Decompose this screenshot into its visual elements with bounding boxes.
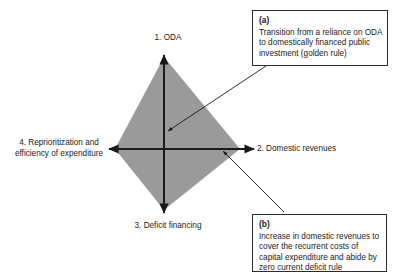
- kite-shape: [115, 57, 240, 210]
- axis-label-domestic-revenues: 2. Domestic revenues: [257, 144, 336, 155]
- axis-label-oda: 1. ODA: [128, 33, 208, 44]
- diagram-root: 1. ODA 2. Domestic revenues 3. Deficit f…: [0, 0, 400, 280]
- callout-b-tag: (b): [259, 219, 381, 230]
- axis-label-deficit-financing: 3. Deficit financing: [118, 221, 218, 232]
- axis-label-reprioritization-line1: 4. Reprioritization and: [4, 138, 114, 149]
- axis-label-reprioritization-line2: efficiency of expenditure: [4, 149, 114, 160]
- callout-box-a: (a) Transition from a reliance on ODA to…: [252, 10, 388, 66]
- callout-a-text: Transition from a reliance on ODA to dom…: [259, 28, 382, 59]
- callout-box-b: (b) Increase in domestic revenues to cov…: [252, 214, 387, 272]
- callout-b-text: Increase in domestic revenues to cover t…: [259, 232, 381, 274]
- axis-label-reprioritization: 4. Reprioritization and efficiency of ex…: [4, 138, 114, 159]
- callout-a-tag: (a): [259, 15, 382, 26]
- leader-line-b: [223, 151, 284, 212]
